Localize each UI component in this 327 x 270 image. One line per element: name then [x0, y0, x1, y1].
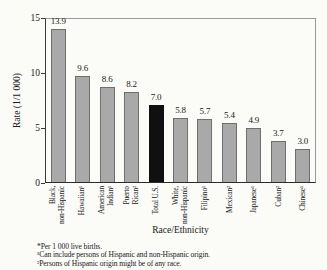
bar-value-label: 7.0: [144, 92, 168, 102]
x-axis-title: Race/Ethnicity: [45, 225, 316, 235]
x-tick-label: American Indian¹: [98, 186, 115, 214]
bar: [100, 87, 115, 182]
bar-value-label: 5.7: [193, 106, 217, 116]
x-tick-label: Mexican²: [226, 186, 235, 213]
bar-cell: 5.4: [217, 19, 241, 182]
bar-cell: 13.9: [46, 19, 70, 182]
footnotes: *Per 1 000 live births.¹Can include pers…: [37, 243, 210, 268]
x-tick-label: Filipino¹: [201, 186, 210, 210]
bar-cell: 5.8: [168, 19, 192, 182]
y-axis-title: Rate (1/1 000): [12, 18, 24, 183]
y-tick-mark: [41, 73, 45, 74]
bars-container: 13.99.68.68.27.05.85.75.44.93.73.0: [46, 19, 315, 182]
x-tick-label: Total U.S.: [152, 186, 161, 215]
bar: [75, 76, 90, 182]
bar-value-label: 5.8: [168, 105, 192, 115]
plot-area: 13.99.68.68.27.05.85.75.44.93.73.0: [45, 18, 316, 183]
bar-value-label: 8.2: [119, 79, 143, 89]
bar-value-label: 3.7: [266, 128, 290, 138]
bar: [149, 105, 164, 182]
x-tick-label: Black, non-Hispanic: [49, 186, 66, 224]
bar: [197, 119, 212, 182]
x-tick-label: Puerto Rican²: [123, 186, 140, 205]
bar-cell: 3.0: [291, 19, 315, 182]
bar-value-label: 13.9: [46, 16, 70, 26]
bar: [295, 149, 310, 182]
bar: [124, 92, 139, 182]
x-tick-label: Hawaiian¹: [78, 186, 87, 215]
bar: [271, 141, 286, 182]
bar-cell: 7.0: [144, 19, 168, 182]
bar-value-label: 4.9: [242, 115, 266, 125]
y-tick-label: 5: [0, 123, 40, 134]
y-tick-mark: [41, 183, 45, 184]
bar-cell: 9.6: [70, 19, 94, 182]
bar: [173, 118, 188, 182]
y-tick-mark: [41, 18, 45, 19]
bar-value-label: 9.6: [70, 63, 94, 73]
footnote-line: ²Persons of Hispanic origin might be of …: [37, 260, 210, 268]
y-tick-label: 10: [0, 68, 40, 79]
x-tick-label: Japanese¹: [250, 186, 259, 213]
bar: [51, 29, 66, 182]
bar: [222, 123, 237, 182]
bar-cell: 8.2: [119, 19, 143, 182]
bar: [246, 128, 261, 182]
y-tick-label: 0: [0, 178, 40, 189]
bar-value-label: 8.6: [95, 74, 119, 84]
x-tick-label: Cuban²: [275, 186, 284, 207]
x-tick-label: Chinese¹: [299, 186, 308, 211]
bar-cell: 3.7: [266, 19, 290, 182]
x-tick-label: White, non-Hispanic: [172, 186, 189, 224]
bar-chart-figure: Rate (1/1 000) 13.99.68.68.27.05.85.75.4…: [0, 0, 327, 270]
bar-cell: 4.9: [242, 19, 266, 182]
bar-value-label: 3.0: [291, 136, 315, 146]
bar-value-label: 5.4: [217, 110, 241, 120]
y-tick-mark: [41, 128, 45, 129]
bar-cell: 8.6: [95, 19, 119, 182]
y-tick-label: 15: [0, 13, 40, 24]
bar-cell: 5.7: [193, 19, 217, 182]
